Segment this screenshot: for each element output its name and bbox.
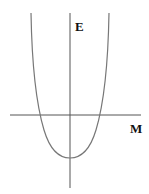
e-axis-label: E [75, 20, 84, 33]
m-axis-label: M [130, 122, 142, 135]
